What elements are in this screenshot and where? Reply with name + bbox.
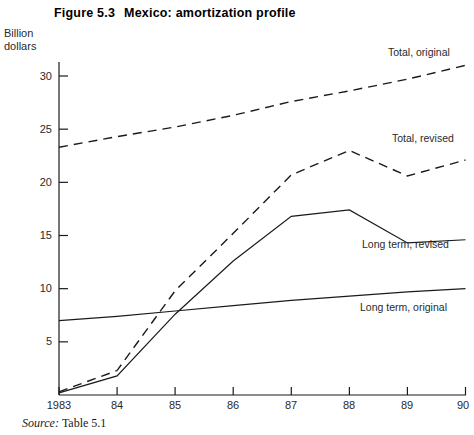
series-label-long-term-revised: Long term, revised (362, 238, 449, 250)
x-tick-label-89: 89 (392, 399, 422, 411)
source-note: Source:Table 5.1 (22, 416, 106, 431)
y-tick-label-25: 25 (24, 123, 52, 135)
x-tick-label-1983: 1983 (39, 399, 79, 411)
x-tick-label-84: 84 (102, 399, 132, 411)
y-axis-ticks (59, 76, 68, 342)
y-tick-label-5: 5 (24, 335, 52, 347)
source-reference: Table 5.1 (62, 416, 106, 430)
x-tick-label-85: 85 (160, 399, 190, 411)
y-tick-label-30: 30 (24, 70, 52, 82)
x-tick-label-86: 86 (218, 399, 248, 411)
x-axis-ticks (59, 387, 466, 395)
series-total-revised (59, 150, 466, 391)
source-label: Source: (22, 416, 59, 430)
x-tick-label-87: 87 (276, 399, 306, 411)
y-tick-label-20: 20 (24, 176, 52, 188)
y-tick-label-10: 10 (24, 282, 52, 294)
x-tick-label-90: 90 (448, 399, 474, 411)
series-label-total-original: Total, original (388, 46, 450, 58)
x-tick-label-88: 88 (334, 399, 364, 411)
y-tick-label-15: 15 (24, 229, 52, 241)
series-label-long-term-original: Long term, original (360, 301, 447, 313)
series-label-total-revised: Total, revised (392, 132, 454, 144)
